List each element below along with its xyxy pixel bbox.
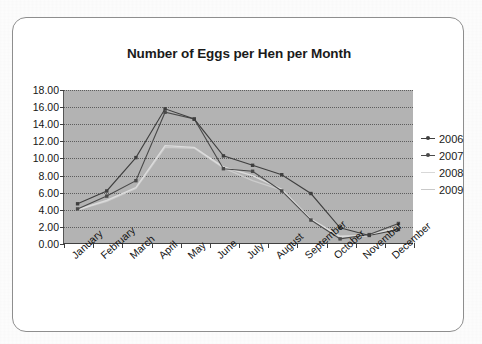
y-axis-label: 6.00: [15, 187, 59, 199]
data-point-2006-February: [105, 189, 108, 192]
legend-label: 2008: [439, 167, 463, 179]
legend-item-2007[interactable]: 2007: [421, 147, 477, 164]
data-point-2007-January: [76, 207, 79, 210]
series-line-2008: [78, 146, 399, 237]
legend-swatch-icon: [421, 168, 435, 178]
data-point-2007-September: [309, 218, 312, 221]
y-axis-label: 18.00: [15, 84, 59, 96]
legend-label: 2009: [439, 184, 463, 196]
series-line-2007: [78, 112, 399, 239]
y-axis-label: 8.00: [15, 170, 59, 182]
series-line-2006: [78, 109, 399, 236]
data-point-2006-June: [222, 154, 225, 157]
data-point-2007-October: [338, 237, 341, 240]
chart-title: Number of Eggs per Hen per Month: [13, 46, 465, 61]
data-point-2006-September: [309, 192, 312, 195]
y-axis-label: 14.00: [15, 118, 59, 130]
y-axis-label: 2.00: [15, 221, 59, 233]
chart-card: Number of Eggs per Hen per Month 2006200…: [12, 17, 464, 332]
legend-item-2008[interactable]: 2008: [421, 164, 477, 181]
legend-label: 2007: [439, 150, 463, 162]
legend-item-2009[interactable]: 2009: [421, 181, 477, 198]
y-axis-label: 0.00: [15, 238, 59, 250]
data-point-2006-November: [368, 234, 371, 237]
data-point-2006-August: [280, 173, 283, 176]
chart-legend: 2006200720082009: [421, 130, 477, 198]
legend-swatch-icon: [421, 185, 435, 195]
chart-series-layer: [63, 90, 413, 244]
legend-label: 2006: [439, 133, 463, 145]
data-point-2007-March: [134, 179, 137, 182]
data-point-2006-April: [163, 107, 166, 110]
data-point-2006-July: [251, 164, 254, 167]
data-point-2006-January: [76, 202, 79, 205]
y-axis-label: 4.00: [15, 204, 59, 216]
data-point-2007-February: [105, 194, 108, 197]
data-point-2007-August: [280, 189, 283, 192]
y-axis-label: 16.00: [15, 101, 59, 113]
data-point-2007-July: [251, 170, 254, 173]
y-axis-label: 10.00: [15, 152, 59, 164]
plot-wrapper: [63, 90, 413, 244]
data-point-2006-March: [134, 156, 137, 159]
legend-swatch-icon: [421, 151, 435, 161]
data-point-2006-May: [193, 117, 196, 120]
legend-swatch-icon: [421, 134, 435, 144]
scanned-page-background: Number of Eggs per Hen per Month 2006200…: [0, 0, 482, 344]
data-point-2007-June: [222, 167, 225, 170]
legend-item-2006[interactable]: 2006: [421, 130, 477, 147]
y-axis-label: 12.00: [15, 135, 59, 147]
